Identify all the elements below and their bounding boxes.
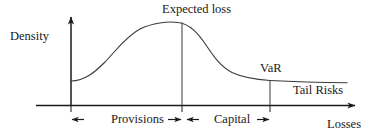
- x-axis-label: Losses: [327, 118, 361, 131]
- expected-loss-label: Expected loss: [162, 3, 231, 16]
- capital-span-label: Capital: [214, 113, 250, 126]
- var-label: VaR: [260, 62, 282, 75]
- y-axis-label: Density: [10, 30, 49, 43]
- tail-risks-label: Tail Risks: [293, 84, 343, 97]
- provisions-span-label: Provisions: [111, 113, 164, 126]
